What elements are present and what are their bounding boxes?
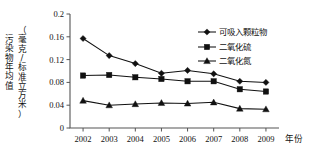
data-point-square [263, 89, 268, 94]
y-axis-tick-label: 0.12 [49, 55, 64, 65]
x-axis-tick-label: 2008 [231, 134, 248, 144]
data-point-square [185, 79, 190, 84]
data-point-square [211, 79, 216, 84]
legend-marker-square [204, 44, 209, 49]
svg-text:值: 值 [5, 80, 14, 91]
data-point-square [80, 73, 85, 78]
y-axis-title-units: （毫克/标准立方米） [18, 25, 27, 119]
legend-label: 二氧化氮 [219, 56, 252, 66]
y-axis-tick-label: 0.08 [49, 77, 64, 87]
data-point-diamond [106, 53, 112, 59]
data-point-diamond [263, 79, 269, 85]
data-point-square [159, 76, 164, 81]
x-axis-tick-label: 2003 [101, 134, 118, 144]
data-point-diamond [184, 67, 190, 73]
y-axis-tick-label: 0.2 [53, 9, 64, 19]
data-point-triangle [80, 97, 87, 103]
x-axis-tick-label: 2002 [75, 134, 92, 144]
legend-marker-diamond [204, 29, 210, 35]
x-axis-tick-label: 2007 [205, 134, 222, 144]
x-axis-tick-label: 2009 [257, 134, 274, 144]
data-point-square [237, 87, 242, 92]
data-point-square [106, 72, 111, 77]
y-axis-tick-label: 0 [60, 123, 64, 133]
x-axis-title: 年份 [285, 133, 303, 144]
pollutant-annual-average-line-chart: 00.040.080.120.160.220022003200420052006… [0, 0, 318, 158]
y-axis-tick-label: 0.04 [49, 100, 65, 110]
data-point-diamond [132, 60, 138, 66]
data-point-diamond [80, 35, 86, 41]
data-point-square [133, 75, 138, 80]
legend-label: 可吸入颗粒物 [219, 27, 267, 37]
x-axis-tick-label: 2006 [179, 134, 196, 144]
legend-label: 二氧化硫 [219, 42, 252, 52]
y-axis-title-primary: 污染物年均值 [5, 33, 14, 91]
x-axis-tick-label: 2004 [127, 134, 145, 144]
data-point-diamond [237, 78, 243, 84]
chart-canvas: 00.040.080.120.160.220022003200420052006… [0, 0, 318, 158]
y-axis-tick-label: 0.16 [49, 32, 64, 42]
data-point-diamond [158, 70, 164, 76]
data-point-diamond [211, 71, 217, 77]
x-axis-tick-label: 2005 [153, 134, 170, 144]
svg-text:）: ） [18, 109, 27, 119]
